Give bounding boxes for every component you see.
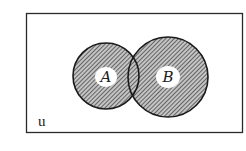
- set-a-label: A: [99, 68, 112, 86]
- universe-label: u: [38, 113, 46, 129]
- venn-diagram: A B u: [0, 0, 246, 151]
- set-b-label: B: [161, 68, 173, 86]
